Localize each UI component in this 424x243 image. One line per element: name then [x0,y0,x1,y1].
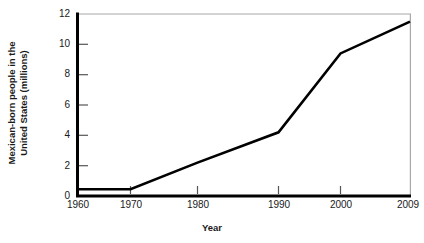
x-tick-label-1970: 1970 [120,200,142,210]
x-tick-label-1990: 1990 [268,200,290,210]
x-tick-label-1980: 1980 [187,200,209,210]
x-tick-label-1960: 1960 [67,200,89,210]
x-tick-label-2000: 2000 [330,200,352,210]
x-axis-title: Year [0,222,424,233]
x-axis-tick-labels: 1960 1970 1980 1990 2000 2009 [0,0,424,243]
line-chart: Mexican-born people in the United States… [0,0,424,243]
x-tick-label-2009: 2009 [397,200,419,210]
